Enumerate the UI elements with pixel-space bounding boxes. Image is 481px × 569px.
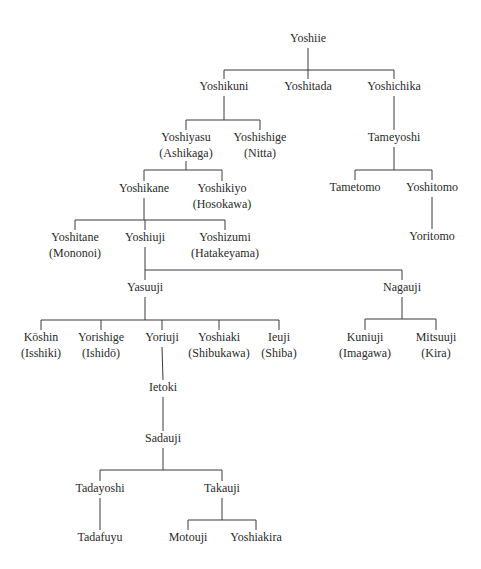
node-name: Yoshitada [284,79,332,93]
node-yoritomo: Yoritomo [409,229,454,243]
node-yoshitomo: Yoshitomo [406,180,458,194]
node-tadayoshi: Tadayoshi [75,481,125,495]
node-name: Yoshitomo [406,180,458,194]
node-clan: (Mononoi) [49,246,101,260]
node-clan: (Hatakeyama) [191,246,259,260]
node-name: Takauji [204,481,240,495]
node-yoshitada: Yoshitada [284,79,332,93]
node-name: Mitsuuji [416,330,457,344]
node-yoshitane: Yoshitane(Mononoi) [49,230,101,260]
node-yoshikiyo: Yoshikiyo(Hosokawa) [193,181,252,211]
node-yoshiie: Yoshiie [290,31,326,45]
node-yoshiakira: Yoshiakira [230,530,282,544]
node-clan: (Ishidō) [82,346,120,360]
node-yorishige: Yorishige(Ishidō) [78,330,124,360]
node-name: Yoshitane [51,230,98,244]
node-name: Motouji [169,530,208,544]
node-name: Yoriuji [145,330,179,344]
node-tameyoshi: Tameyoshi [368,130,421,144]
node-yoshiaki: Yoshiaki(Shibukawa) [188,330,249,360]
node-clan: (Hosokawa) [193,197,252,211]
node-name: Tadayoshi [75,481,125,495]
node-ietoki: Ietoki [149,380,178,394]
node-yoriuji: Yoriuji [145,330,179,344]
node-name: Yoshikiyo [198,181,247,195]
node-yoshikane: Yoshikane [119,181,169,195]
tree-nodes: YoshiieYoshikuniYoshitadaYoshichikaYoshi… [21,31,458,544]
node-clan: (Isshiki) [21,346,61,360]
node-name: Yoshichika [367,79,421,93]
node-name: Yorishige [78,330,124,344]
node-name: Ietoki [149,380,178,394]
node-ieuji: Ieuji(Shiba) [261,330,296,360]
node-motouji: Motouji [169,530,208,544]
connector-lines [41,48,436,530]
node-name: Kuniuji [347,330,384,344]
node-name: Yoshiie [290,31,326,45]
node-yoshizumi: Yoshizumi(Hatakeyama) [191,230,259,260]
node-tadafuyu: Tadafuyu [77,530,122,544]
node-name: Kōshin [24,330,59,344]
node-takauji: Takauji [204,481,240,495]
node-name: Tadafuyu [77,530,122,544]
node-yasuuji: Yasuuji [127,280,164,294]
node-name: Yoshizumi [199,230,251,244]
node-yoshikuni: Yoshikuni [200,79,249,93]
node-yoshiyasu: Yoshiyasu(Ashikaga) [159,130,212,160]
node-name: Yoritomo [409,229,454,243]
node-name: Yoshiaki [198,330,241,344]
node-name: Yoshiuji [125,230,166,244]
node-clan: (Nitta) [244,146,276,160]
node-yoshishige: Yoshishige(Nitta) [234,130,287,160]
node-clan: (Ashikaga) [159,146,212,160]
node-name: Tametomo [329,180,380,194]
node-clan: (Shiba) [261,346,296,360]
node-kuniuji: Kuniuji(Imagawa) [339,330,391,360]
node-name: Sadauji [145,431,182,445]
family-tree: YoshiieYoshikuniYoshitadaYoshichikaYoshi… [0,0,481,569]
node-clan: (Shibukawa) [188,346,249,360]
node-name: Yasuuji [127,280,164,294]
node-name: Yoshikane [119,181,169,195]
node-yoshichika: Yoshichika [367,79,421,93]
node-nagauji: Nagauji [383,280,422,294]
node-name: Yoshikuni [200,79,249,93]
node-name: Yoshishige [234,130,287,144]
node-tametomo: Tametomo [329,180,380,194]
node-name: Yoshiyasu [161,130,210,144]
node-mitsuuji: Mitsuuji(Kira) [416,330,457,360]
node-name: Tameyoshi [368,130,421,144]
node-clan: (Kira) [421,346,450,360]
node-sadauji: Sadauji [145,431,182,445]
node-name: Ieuji [268,330,291,344]
node-clan: (Imagawa) [339,346,391,360]
node-yoshiuji: Yoshiuji [125,230,166,244]
node-name: Nagauji [383,280,422,294]
connector-yoriuji-ietoki [162,347,163,380]
node-koshin: Kōshin(Isshiki) [21,330,61,360]
node-name: Yoshiakira [230,530,282,544]
